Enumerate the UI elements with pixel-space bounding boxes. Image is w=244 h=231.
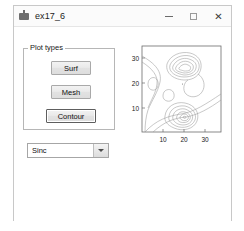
x-tick-label-30: 30 [201, 136, 209, 143]
mesh-button-label: Mesh [62, 88, 80, 97]
y-tick-label-10: 10 [132, 105, 140, 112]
surf-button-label: Surf [64, 64, 78, 73]
mesh-button[interactable]: Mesh [51, 85, 91, 99]
minimize-button[interactable] [156, 6, 181, 27]
y-tick-label-30: 30 [132, 55, 140, 62]
minimize-icon [165, 16, 173, 17]
client-area: Plot types Surf Mesh Contour Sinc [14, 27, 231, 221]
chevron-down-icon[interactable] [93, 144, 108, 157]
contour-button[interactable]: Contour [46, 109, 96, 123]
close-button[interactable]: ✕ [206, 6, 231, 27]
close-icon: ✕ [214, 12, 222, 22]
contour-button-label: Contour [58, 112, 85, 121]
maximize-icon [190, 13, 197, 20]
window-title: ex17_6 [35, 11, 65, 21]
application-window: ex17_6 ✕ Plot types Surf Mesh Contour [13, 5, 232, 221]
plot-types-legend: Plot types [28, 43, 65, 52]
contour-plot: 30 20 10 10 20 30 [126, 42, 225, 158]
maximize-button[interactable] [181, 6, 206, 27]
x-tick-label-20: 20 [180, 136, 188, 143]
surf-button[interactable]: Surf [51, 61, 91, 75]
x-tick-label-10: 10 [159, 136, 167, 143]
function-select[interactable]: Sinc [27, 143, 109, 158]
window-controls: ✕ [156, 6, 231, 27]
contour-plot-panel: 30 20 10 10 20 30 [126, 42, 225, 158]
plot-types-group: Plot types Surf Mesh Contour [23, 48, 115, 130]
y-tick-label-20: 20 [132, 80, 140, 87]
title-bar: ex17_6 ✕ [14, 6, 231, 27]
function-select-value: Sinc [28, 146, 93, 155]
matlab-figure-icon [18, 10, 30, 22]
